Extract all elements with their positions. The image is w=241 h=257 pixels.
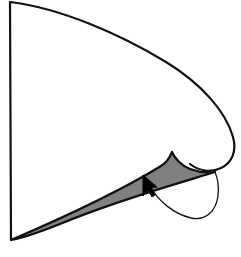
left-edge-line [10,2,11,240]
figure-canvas [0,0,241,257]
geometric-figure [0,0,241,257]
